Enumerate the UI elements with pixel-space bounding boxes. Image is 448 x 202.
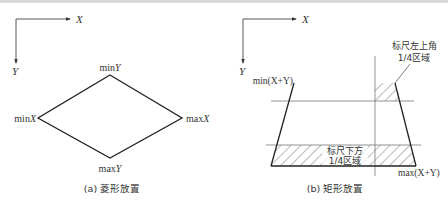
callout-leader-line [395, 64, 410, 83]
caption-a: (a) 菱形放置 [84, 183, 140, 194]
y-axis-label: Y [239, 65, 247, 77]
label-min-x: minX [14, 113, 37, 124]
figure-canvas: X Y minY minX maxX maxY (a) 菱形放置 X Y [0, 0, 448, 202]
axes-b: X Y [239, 13, 310, 77]
panel-a: X Y minY minX maxX maxY (a) 菱形放置 [12, 13, 210, 194]
label-max-y: maxY [99, 163, 123, 174]
label-max-x: maxX [186, 113, 210, 124]
callout-bottom-line2: 1/4区域 [329, 155, 361, 166]
hatch-top-left-quarter [375, 83, 405, 101]
callout-top-line1: 标尺左上角 [392, 40, 437, 51]
x-axis-label: X [75, 13, 84, 25]
callout-top-line2: 1/4区域 [398, 52, 430, 63]
label-max-x-plus-y: max(X+Y) [398, 168, 440, 179]
x-axis-label: X [301, 13, 310, 25]
diamond-shape [38, 75, 182, 158]
caption-b: (b) 矩形放置 [307, 183, 363, 194]
callout-bottom-line1: 标尺下方 [327, 145, 363, 156]
label-min-x-plus-y: min(X+Y) [253, 76, 293, 87]
y-axis-label: Y [12, 65, 20, 77]
axes-a: X Y [12, 13, 84, 77]
label-min-y: minY [99, 62, 122, 73]
panel-b: X Y min(X+Y) max(X+Y) 标尺左上角 1/4区域 标尺下方 1… [239, 13, 440, 194]
